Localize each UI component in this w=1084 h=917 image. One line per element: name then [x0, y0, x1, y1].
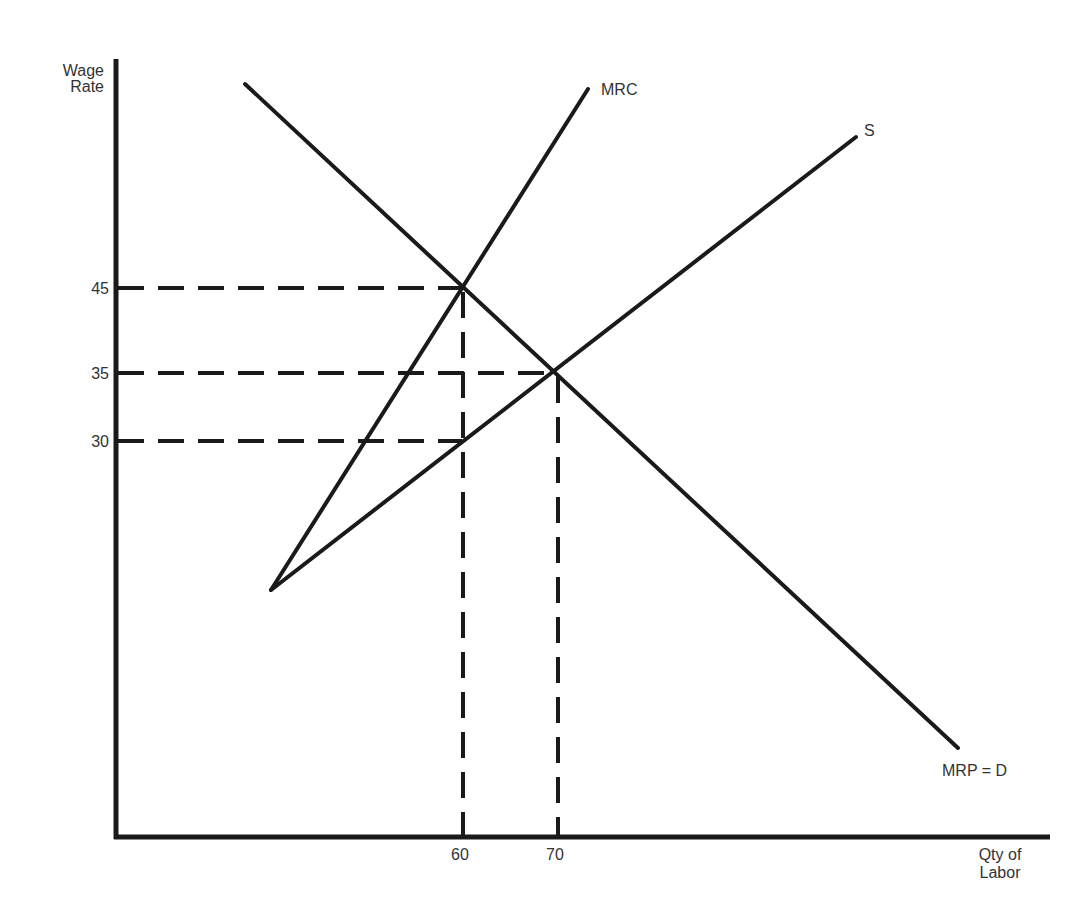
- y-tick-30: 30: [91, 433, 109, 450]
- y-tick-45: 45: [91, 280, 109, 297]
- y-axis-label-line2: Rate: [70, 78, 104, 95]
- x-axis-label-line2: Labor: [980, 864, 1022, 881]
- x-axis-label-line1: Qty of: [979, 846, 1022, 863]
- y-tick-35: 35: [91, 365, 109, 382]
- supply-label: S: [864, 122, 875, 139]
- mrc-curve: [271, 89, 588, 590]
- supply-curve: [271, 137, 856, 590]
- y-axis-label-line1: Wage: [63, 62, 104, 79]
- mrc-label: MRC: [601, 81, 637, 98]
- x-tick-60: 60: [451, 846, 469, 863]
- mrp-label: MRP = D: [942, 762, 1007, 779]
- monopsony-chart: Wage Rate Qty of Labor MRC S MRP = D 45 …: [0, 0, 1084, 917]
- mrp-demand-curve: [245, 84, 958, 748]
- x-tick-70: 70: [546, 846, 564, 863]
